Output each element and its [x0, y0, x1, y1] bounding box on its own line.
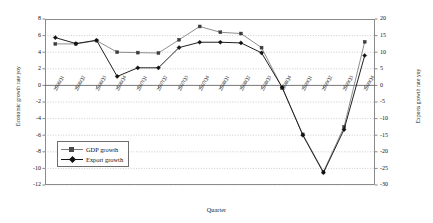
chart-legend: GDP growth Export growth — [57, 141, 129, 167]
y-tick-left-2: 4 — [21, 49, 41, 55]
legend-marker-diamond-icon — [61, 154, 83, 164]
y-tick-right-7: -15 — [380, 132, 402, 138]
y-tick-right-5: -5 — [380, 98, 402, 104]
legend-label-gdp-growth: GDP growth — [83, 146, 118, 153]
legend-item-export-growth: Export growth — [61, 154, 123, 164]
y-tick-left-10: -12 — [21, 181, 41, 187]
y-tick-right-6: -10 — [380, 115, 402, 121]
y-tick-left-7: -6 — [21, 132, 41, 138]
y-tick-left-4: 0 — [21, 82, 41, 88]
y-tick-right-3: 5 — [380, 65, 402, 71]
y-tick-right-0: 20 — [380, 15, 402, 21]
y-tick-left-1: 6 — [21, 32, 41, 38]
y-tick-right-4: 0 — [380, 82, 402, 88]
y-tick-left-5: -2 — [21, 98, 41, 104]
chart-container: Economic growth rate yoy Exports growth … — [0, 0, 433, 223]
x-axis-title: Quarter — [0, 206, 433, 213]
legend-label-export-growth: Export growth — [83, 156, 123, 163]
y-axis-right-title: Exports growth rate yoy — [415, 41, 421, 151]
y-tick-left-3: 2 — [21, 65, 41, 71]
y-tick-left-6: -4 — [21, 115, 41, 121]
y-tick-right-2: 10 — [380, 49, 402, 55]
y-tick-right-8: -20 — [380, 148, 402, 154]
y-tick-left-0: 8 — [21, 15, 41, 21]
y-tick-right-9: -25 — [380, 165, 402, 171]
y-tick-left-9: -10 — [21, 165, 41, 171]
y-tick-left-8: -8 — [21, 148, 41, 154]
legend-item-gdp-growth: GDP growth — [61, 144, 123, 154]
legend-marker-square-icon — [61, 144, 83, 154]
y-tick-right-10: -30 — [380, 181, 402, 187]
y-tick-right-1: 15 — [380, 32, 402, 38]
